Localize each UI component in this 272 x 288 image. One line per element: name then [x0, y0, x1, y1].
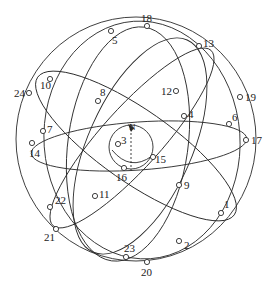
point-3: 3	[115, 134, 127, 147]
point-marker	[144, 23, 149, 28]
point-marker	[176, 238, 181, 243]
diagonal-circle-b	[31, 30, 234, 246]
point-label: 4	[188, 108, 194, 120]
point-marker	[218, 210, 223, 215]
sphere-diagram: N 12345678910111213141516171819202122232…	[0, 0, 272, 288]
point-9: 9	[176, 179, 190, 191]
point-22: 22	[47, 194, 66, 210]
point-marker	[181, 113, 186, 118]
point-marker	[95, 98, 100, 103]
point-19: 19	[237, 91, 256, 103]
point-marker	[115, 141, 120, 146]
point-marker	[176, 182, 181, 187]
point-label: 22	[55, 194, 66, 206]
point-10: 10	[40, 76, 53, 91]
point-label: 16	[116, 171, 128, 183]
point-label: 19	[245, 91, 257, 103]
point-marker	[92, 193, 97, 198]
point-marker	[108, 28, 113, 33]
point-15: 15	[150, 153, 166, 165]
point-marker	[226, 121, 231, 126]
point-16: 16	[116, 165, 128, 183]
point-5: 5	[108, 28, 118, 46]
point-label: 13	[203, 37, 215, 49]
point-20: 20	[141, 259, 153, 278]
point-marker	[237, 94, 242, 99]
point-marker	[196, 43, 201, 48]
point-23: 23	[123, 242, 135, 260]
point-marker	[40, 128, 45, 133]
point-24: 24	[14, 87, 32, 99]
point-label: 20	[141, 266, 153, 278]
point-marker	[173, 88, 178, 93]
point-marker	[26, 90, 31, 95]
point-12: 12	[161, 85, 179, 97]
point-label: 18	[141, 12, 153, 24]
point-label: 2	[184, 239, 190, 251]
point-label: 21	[44, 231, 55, 243]
point-label: 15	[155, 153, 167, 165]
point-marker	[123, 254, 128, 259]
point-label: 11	[99, 188, 110, 200]
point-label: 7	[47, 123, 53, 135]
point-label: 17	[251, 134, 263, 146]
point-label: 1	[224, 198, 230, 210]
point-13: 13	[196, 37, 214, 49]
point-marker	[29, 140, 34, 145]
point-label: 3	[121, 134, 127, 146]
point-4: 4	[181, 108, 194, 120]
point-6: 6	[226, 111, 238, 127]
point-label: 8	[100, 86, 106, 98]
point-18: 18	[141, 12, 153, 29]
point-21: 21	[44, 226, 59, 243]
meridian-circle-c	[45, 19, 234, 273]
point-marker	[144, 259, 149, 264]
point-label: 23	[124, 242, 136, 254]
north-label: N	[129, 122, 136, 132]
point-label: 5	[112, 34, 118, 46]
point-marker	[243, 137, 248, 142]
point-label: 10	[40, 79, 52, 91]
inner-sphere-arc	[112, 150, 152, 163]
point-7: 7	[40, 123, 53, 135]
point-marker	[121, 165, 126, 170]
point-label: 24	[14, 87, 26, 99]
point-label: 6	[232, 111, 238, 123]
point-label: 9	[184, 179, 190, 191]
point-label: 12	[161, 85, 172, 97]
point-label: 14	[29, 147, 41, 159]
point-marker	[47, 204, 52, 209]
point-11: 11	[92, 188, 109, 200]
point-1: 1	[218, 198, 229, 216]
